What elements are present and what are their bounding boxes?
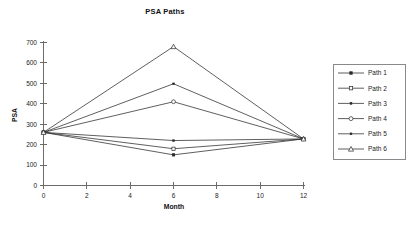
series-polyline	[44, 47, 304, 139]
data-point-marker	[173, 83, 175, 85]
x-tick-label: 0	[42, 192, 46, 199]
psa-paths-chart: PSA Paths 0100200300400500600700 0246810…	[0, 0, 411, 228]
x-tick-label: 12	[300, 192, 308, 199]
data-series-group	[41, 44, 306, 156]
legend-label: Path 6	[368, 145, 387, 152]
x-tick-label: 2	[85, 192, 89, 199]
series-path-3	[43, 132, 305, 142]
series-path-6	[41, 44, 306, 141]
y-tick-label: 500	[26, 80, 37, 87]
x-tick-label: 8	[215, 192, 219, 199]
data-point-marker	[349, 117, 353, 121]
data-point-marker	[172, 147, 175, 150]
y-tick-label: 300	[26, 121, 37, 128]
data-point-marker	[172, 100, 176, 104]
series-polyline	[44, 102, 304, 139]
y-axis-title: PSA	[11, 108, 18, 122]
y-tick-label: 0	[33, 182, 37, 189]
legend-label: Path 5	[368, 130, 387, 137]
x-tick-label: 6	[172, 192, 176, 199]
legend-label: Path 1	[368, 69, 387, 76]
y-tick-label: 400	[26, 100, 37, 107]
chart-legend: Path 1Path 2Path 3Path 4Path 5Path 6	[334, 65, 406, 160]
x-axis-ticks: 024681012	[42, 182, 308, 199]
chart-plot-svg: 0100200300400500600700 024681012 PSA Mon…	[0, 0, 411, 228]
data-point-marker	[173, 140, 175, 142]
y-tick-label: 200	[26, 141, 37, 148]
data-point-marker	[172, 154, 174, 156]
series-polyline	[44, 132, 304, 154]
data-point-marker	[350, 72, 353, 75]
y-tick-label: 100	[26, 161, 37, 168]
y-tick-label: 700	[26, 39, 37, 46]
legend-label: Path 4	[368, 115, 387, 122]
data-point-marker	[171, 44, 176, 48]
x-tick-label: 10	[257, 192, 265, 199]
data-point-marker	[349, 87, 352, 90]
x-axis-title: Month	[164, 203, 184, 210]
legend-label: Path 3	[368, 100, 387, 107]
x-tick-label: 4	[128, 192, 132, 199]
data-point-marker	[350, 133, 352, 135]
y-tick-label: 600	[26, 59, 37, 66]
data-point-marker	[350, 103, 352, 105]
legend-label: Path 2	[368, 85, 387, 92]
